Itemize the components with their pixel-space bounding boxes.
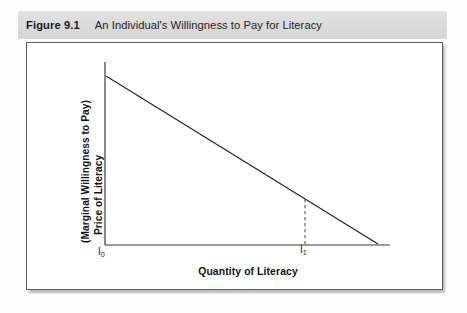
x-tick-i0-subscript: 0: [101, 250, 105, 259]
y-axis-title-line-1: Price of Literacy: [93, 155, 104, 235]
y-axis-title-line-2: (Marginal Willingness to Pay): [80, 100, 91, 243]
demand-curve: [106, 76, 378, 244]
x-tick-label-i1: I1: [300, 244, 307, 255]
x-tick-label-i0: I0: [98, 246, 105, 257]
x-tick-i1-subscript: 1: [303, 248, 307, 257]
x-axis-title: Quantity of Literacy: [105, 266, 391, 277]
figure-container: Figure 9.1 An Individual's Willingness t…: [0, 0, 467, 313]
